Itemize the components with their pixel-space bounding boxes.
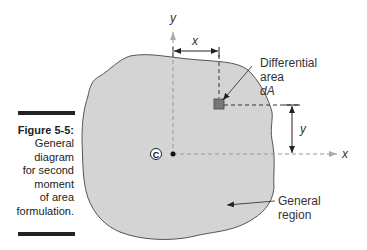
differential-area-label-line: dA — [260, 84, 275, 98]
y-axis-label: y — [169, 11, 177, 25]
general-region-shape — [82, 55, 274, 240]
x-dimension-label: x — [191, 34, 199, 48]
general-region-label-line: region — [278, 208, 311, 222]
differential-area-label-line: area — [260, 70, 284, 84]
y-dimension-label: y — [299, 122, 307, 136]
differential-area-label-line: Differential — [260, 56, 317, 70]
moment-of-area-diagram: y x C x y Differential area dA General r… — [0, 0, 367, 250]
centroid-label: C — [153, 150, 160, 160]
centroid-point — [171, 152, 176, 157]
x-axis-label: x — [341, 147, 349, 161]
differential-area-element — [214, 99, 224, 109]
general-region-label-line: General — [278, 194, 321, 208]
